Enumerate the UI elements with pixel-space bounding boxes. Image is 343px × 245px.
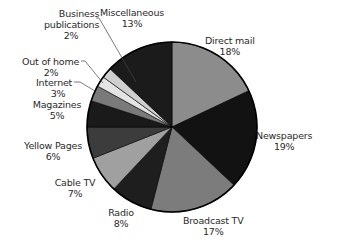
label-name: Business [44, 8, 99, 19]
label-business-publications: Business publications [44, 8, 99, 30]
label-name: Radio [104, 207, 138, 218]
label-name: Out of home [22, 56, 79, 67]
label-radio: Radio 8% [104, 207, 138, 229]
label-name: Miscellaneous [100, 7, 164, 18]
label-name: Direct mail [205, 35, 255, 46]
label-pct: 8% [104, 218, 138, 229]
label-name: Magazines [32, 99, 82, 110]
label-pct: 17% [183, 226, 244, 237]
label-broadcast-tv: Broadcast TV 17% [183, 215, 244, 237]
leader-line-out-of-home [81, 61, 103, 83]
label-name: Cable TV [52, 177, 98, 188]
label-name: Broadcast TV [183, 215, 244, 226]
pie-chart [0, 0, 343, 245]
label-pct: 19% [256, 141, 312, 152]
label-miscellaneous: Miscellaneous 13% [100, 7, 164, 29]
label-out-of-home: Out of home [22, 56, 79, 67]
label-pct: 3% [47, 88, 69, 99]
label-name: Newspapers [256, 130, 312, 141]
label-cable-tv: Cable TV 7% [52, 177, 98, 199]
label-pct: 5% [32, 110, 82, 121]
label-direct-mail: Direct mail 18% [205, 35, 255, 57]
label-name: publications [44, 19, 99, 30]
label-newspapers: Newspapers 19% [256, 130, 312, 152]
label-internet: Internet [36, 77, 72, 88]
label-pct: 2% [60, 30, 82, 41]
label-pct: 18% [205, 46, 255, 57]
pie-slices [87, 42, 257, 212]
label-pct: 7% [52, 188, 98, 199]
label-pct: 6% [22, 151, 84, 162]
label-pct: 13% [100, 18, 164, 29]
label-yellow-pages: Yellow Pages 6% [22, 140, 84, 162]
label-name: Internet [36, 77, 72, 88]
label-magazines: Magazines 5% [32, 99, 82, 121]
leader-line-internet [74, 82, 95, 91]
label-name: Yellow Pages [22, 140, 84, 151]
